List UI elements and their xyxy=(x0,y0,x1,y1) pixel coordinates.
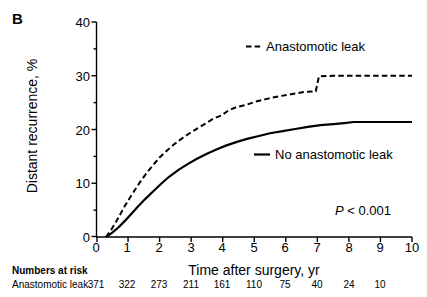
risk-value-0: 371 xyxy=(81,279,111,290)
series-line-no-anastomotic-leak xyxy=(106,122,412,237)
risk-value-5: 110 xyxy=(239,279,269,290)
numbers-at-risk-row-label: Anastomotic leak xyxy=(12,279,88,290)
risk-value-1: 322 xyxy=(112,279,142,290)
p-value-annotation: P < 0.001 xyxy=(335,203,391,218)
p-symbol: P xyxy=(335,203,344,218)
risk-value-7: 40 xyxy=(302,279,332,290)
risk-value-6: 75 xyxy=(270,279,300,290)
risk-value-8: 24 xyxy=(334,279,364,290)
p-value-text: < 0.001 xyxy=(344,203,391,218)
numbers-at-risk-title: Numbers at risk xyxy=(12,265,88,276)
x-axis-ticks xyxy=(97,237,412,242)
risk-value-4: 161 xyxy=(207,279,237,290)
risk-value-2: 273 xyxy=(144,279,174,290)
risk-value-3: 211 xyxy=(176,279,206,290)
y-axis-ticks-major xyxy=(92,22,97,237)
legend-label-anastomotic-leak: Anastomotic leak xyxy=(266,39,365,54)
legend-label-no-anastomotic-leak: No anastomotic leak xyxy=(275,147,393,162)
figure-panel-b: B Distant recurrence, % Time after surge… xyxy=(0,0,427,297)
risk-value-9: 10 xyxy=(365,279,395,290)
